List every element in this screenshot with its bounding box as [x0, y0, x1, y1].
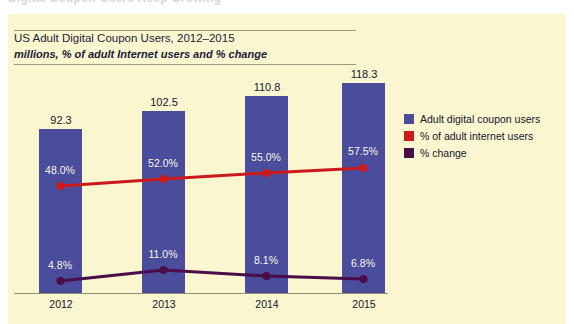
pct-change-label-2012: 4.8%	[31, 259, 89, 271]
chart-subtitle: millions, % of adult Internet users and …	[14, 48, 267, 60]
legend-label-bars: Adult digital coupon users	[420, 113, 540, 125]
chart-screenshot: Digital Coupon Users Keep Growing US Adu…	[0, 0, 574, 324]
pct-change-line	[61, 270, 364, 281]
pct-internet-label-2015: 57.5%	[334, 145, 392, 157]
legend-swatch-icon-red-line	[404, 131, 414, 141]
pct-change-label-2014: 8.1%	[237, 254, 295, 266]
legend-swatch-icon-purple-line	[404, 148, 414, 158]
legend-item-pct-change[interactable]: % change	[404, 147, 540, 159]
legend-swatch-icon-bars	[404, 114, 414, 124]
title-rule-top	[14, 30, 356, 31]
x-label-2012: 2012	[31, 298, 91, 310]
legend-label-purple-line: % change	[420, 147, 467, 159]
cut-off-headline-text: Digital Coupon Users Keep Growing	[8, 0, 221, 5]
pct-change-point-2014	[263, 272, 271, 280]
x-label-2015: 2015	[334, 298, 394, 310]
pct-internet-label-2014: 55.0%	[237, 151, 295, 163]
pct-internet-point-2015	[360, 164, 368, 172]
chart-legend: Adult digital coupon users % of adult in…	[404, 113, 540, 164]
pct-internet-point-2014	[263, 169, 271, 177]
pct-internet-point-2013	[160, 175, 168, 183]
pct-change-point-2013	[160, 266, 168, 274]
legend-item-adult-digital-coupon-users[interactable]: Adult digital coupon users	[404, 113, 540, 125]
pct-change-point-2012	[57, 277, 65, 285]
pct-change-point-2015	[360, 275, 368, 283]
x-label-2013: 2013	[134, 298, 194, 310]
plot-area: 92.3 102.5 110.8 118.3 48.0% 52.0% 55.0%…	[14, 78, 388, 294]
legend-label-red-line: % of adult internet users	[420, 130, 533, 142]
title-rule-bottom	[14, 64, 356, 65]
pct-change-label-2013: 11.0%	[134, 248, 192, 260]
top-bleed-strip: Digital Coupon Users Keep Growing	[0, 0, 574, 14]
pct-internet-label-2012: 48.0%	[31, 164, 89, 176]
pct-internet-label-2013: 52.0%	[134, 157, 192, 169]
pct-internet-users-line	[61, 168, 364, 186]
legend-item-pct-adult-internet-users[interactable]: % of adult internet users	[404, 130, 540, 142]
chart-title: US Adult Digital Coupon Users, 2012–2015	[14, 32, 235, 44]
pct-change-label-2015: 6.8%	[334, 257, 392, 269]
x-label-2014: 2014	[237, 298, 297, 310]
pct-internet-point-2012	[57, 182, 65, 190]
